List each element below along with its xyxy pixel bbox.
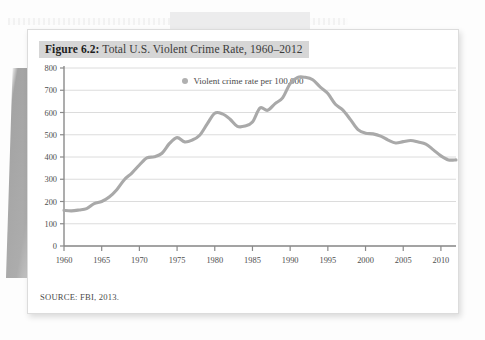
figure-number: Figure 6.2:	[45, 43, 100, 55]
svg-text:0: 0	[53, 242, 57, 251]
svg-text:2005: 2005	[395, 256, 412, 265]
svg-text:1980: 1980	[206, 256, 223, 265]
source-note: SOURCE: FBI, 2013.	[40, 292, 119, 302]
series-line-violent-crime-rate	[64, 77, 456, 211]
svg-text:2000: 2000	[357, 256, 374, 265]
figure-card: Figure 6.2: Total U.S. Violent Crime Rat…	[27, 29, 459, 314]
svg-text:700: 700	[44, 86, 57, 95]
svg-text:1990: 1990	[282, 256, 299, 265]
figure-title-text: Total U.S. Violent Crime Rate, 1960–2012	[100, 43, 303, 55]
svg-text:1995: 1995	[319, 256, 336, 265]
svg-text:1965: 1965	[93, 256, 110, 265]
svg-text:100: 100	[44, 220, 57, 229]
svg-text:1985: 1985	[244, 256, 261, 265]
figure-title: Figure 6.2: Total U.S. Violent Crime Rat…	[39, 41, 309, 58]
svg-text:2010: 2010	[433, 256, 450, 265]
plot-area: 0100200300400500600700800 19601965197019…	[28, 58, 460, 288]
svg-text:200: 200	[44, 198, 57, 207]
svg-text:800: 800	[44, 64, 57, 73]
svg-text:600: 600	[44, 109, 57, 118]
svg-text:1970: 1970	[131, 256, 148, 265]
x-axis-tick-labels: 1960196519701975198019851990199520002005…	[56, 256, 450, 265]
x-axis-ticks	[64, 246, 441, 251]
svg-text:500: 500	[44, 131, 57, 140]
violent-crime-rate-line-chart: 0100200300400500600700800 19601965197019…	[28, 58, 460, 288]
svg-text:1960: 1960	[56, 256, 73, 265]
y-axis-tick-labels: 0100200300400500600700800	[44, 64, 57, 251]
svg-text:400: 400	[44, 153, 57, 162]
svg-text:1975: 1975	[169, 256, 186, 265]
gridlines	[64, 68, 456, 246]
svg-text:300: 300	[44, 175, 57, 184]
